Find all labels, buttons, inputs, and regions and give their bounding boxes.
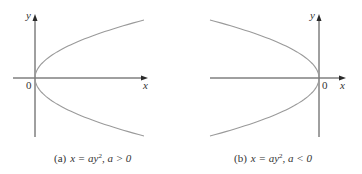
origin-label-a: 0 (26, 79, 32, 91)
caption-a: (a)x = ay2, a > 0 (54, 152, 132, 165)
caption-prefix-b: (b) (234, 152, 247, 165)
y-axis-arrow-icon-b (317, 14, 322, 21)
caption-prefix-a: (a) (54, 152, 67, 165)
caption-equation-b: x = ay (250, 152, 279, 164)
caption-equation-a: x = ay (69, 152, 98, 164)
panel-a: y 0 x (a)x = ay2, a > 0 (13, 9, 148, 165)
caption-condition-b: , a < 0 (283, 152, 313, 164)
parabola-figure: y 0 x (a)x = ay2, a > 0 y 0 x (b)x = ay2… (0, 0, 362, 174)
caption-b: (b)x = ay2, a < 0 (234, 152, 312, 165)
y-axis-label-a: y (25, 9, 31, 21)
panel-b: y 0 x (b)x = ay2, a < 0 (210, 9, 346, 165)
caption-condition-a: , a > 0 (102, 152, 132, 164)
x-axis-label-a: x (142, 79, 148, 91)
origin-label-b: 0 (322, 79, 328, 91)
x-axis-label-b: x (339, 79, 345, 91)
y-axis-arrow-icon-a (33, 14, 38, 21)
y-axis-label-b: y (309, 9, 315, 21)
